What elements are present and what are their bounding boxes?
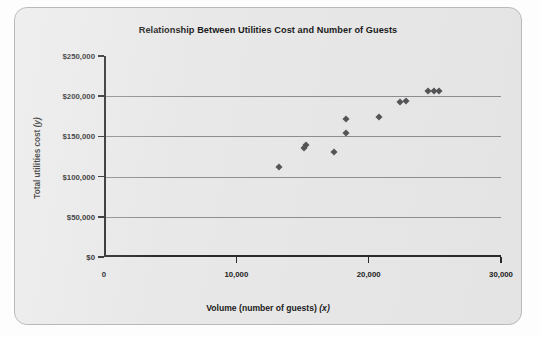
y-tick-label-200000: $200,000 [62, 92, 95, 101]
x-axis-variable: (x) [319, 303, 330, 313]
chart-panel: Relationship Between Utilities Cost and … [14, 7, 522, 325]
y-tick-label-150000: $150,000 [62, 132, 95, 141]
data-point [376, 114, 383, 121]
data-point [435, 87, 442, 94]
x-tick-label-20000: 20,000 [357, 270, 381, 279]
data-point [343, 115, 350, 122]
plot-area: $0$50,000$100,000$150,000$200,000$250,00… [104, 56, 501, 257]
y-axis-title: Total utilities cost (y) [33, 117, 42, 198]
x-axis-line [104, 255, 501, 257]
data-point [331, 148, 338, 155]
y-axis-title-text: Total utilities cost [33, 130, 42, 199]
x-tick-30000 [500, 257, 502, 263]
y-axis-variable: (y) [33, 117, 42, 127]
y-tick-label-0: $0 [86, 253, 95, 262]
x-axis-title: Volume (number of guests) (x) [15, 303, 521, 313]
y-tick-label-100000: $100,000 [62, 172, 95, 181]
x-tick-label-30000: 30,000 [489, 270, 513, 279]
x-tick-label-0: 0 [102, 270, 106, 279]
x-tick-10000 [236, 257, 238, 263]
x-tick-label-10000: 10,000 [224, 270, 248, 279]
gridline-y-100000 [104, 177, 501, 178]
y-tick-label-250000: $250,000 [62, 52, 95, 61]
gridline-y-50000 [104, 217, 501, 218]
y-tick-label-50000: $50,000 [67, 212, 95, 221]
gridline-y-200000 [104, 96, 501, 97]
x-tick-20000 [368, 257, 370, 263]
y-axis-line [104, 56, 106, 257]
chart-title: Relationship Between Utilities Cost and … [15, 25, 521, 35]
gridline-y-150000 [104, 136, 501, 137]
x-axis-title-text: Volume (number of guests) [206, 303, 317, 313]
data-point [402, 97, 409, 104]
data-point [275, 163, 282, 170]
